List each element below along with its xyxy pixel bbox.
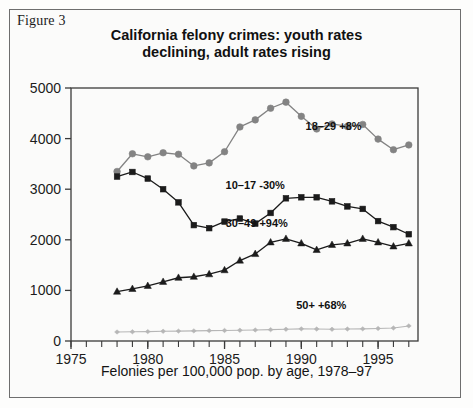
data-point-marker (283, 196, 289, 202)
data-point-marker (330, 327, 335, 331)
y-axis-tick-label: 5000 (30, 80, 61, 96)
data-point-marker (299, 194, 305, 200)
data-point-marker (175, 151, 182, 158)
y-axis-tick-label: 1000 (30, 282, 61, 298)
data-point-marker (237, 124, 244, 131)
data-point-marker (345, 327, 350, 331)
data-point-marker (207, 328, 212, 332)
data-point-marker (405, 142, 412, 149)
data-point-marker (160, 149, 167, 156)
data-point-marker (267, 105, 274, 112)
data-point-marker (282, 235, 289, 241)
data-point-marker (129, 150, 136, 157)
series-line (117, 102, 409, 171)
data-point-marker (360, 327, 365, 331)
series-30-49: 30–49 +94% (113, 217, 412, 294)
data-point-marker (298, 113, 305, 120)
data-point-marker (390, 146, 397, 153)
data-point-marker (253, 328, 258, 332)
data-point-marker (406, 324, 411, 328)
y-axis-tick-label: 0 (53, 333, 61, 349)
data-point-marker (191, 163, 198, 170)
data-point-marker (268, 327, 273, 331)
series-18-29: 18–29 +8% (114, 99, 412, 175)
data-point-marker (191, 222, 197, 228)
data-point-marker (160, 186, 166, 192)
data-point-marker (130, 169, 136, 175)
data-point-marker (391, 224, 397, 230)
series-label-0: 18–29 +8% (306, 120, 362, 132)
data-point-marker (145, 329, 150, 333)
series-label-2: 30–49 +94% (226, 217, 288, 229)
data-point-marker (191, 329, 196, 333)
data-point-marker (376, 326, 381, 330)
data-point-marker (314, 327, 319, 331)
data-point-marker (283, 327, 288, 331)
data-point-marker (360, 206, 366, 212)
series-50-: 50+ +68% (115, 299, 412, 335)
data-point-marker (206, 160, 213, 167)
data-point-marker (161, 329, 166, 333)
data-point-marker (237, 328, 242, 332)
data-point-marker (406, 231, 412, 237)
data-point-marker (359, 235, 366, 241)
y-axis-tick-label: 3000 (30, 181, 61, 197)
data-point-marker (299, 327, 304, 331)
series-label-1: 10–17 -30% (226, 179, 286, 191)
data-point-marker (221, 148, 228, 155)
y-axis-tick-label: 4000 (30, 131, 61, 147)
data-point-marker (176, 200, 182, 206)
data-point-marker (252, 250, 259, 256)
line-chart-plot: 0100020003000400050001975198019851990199… (0, 0, 473, 408)
data-point-marker (391, 326, 396, 330)
series-label-3: 50+ +68% (296, 299, 346, 311)
x-axis-title: Felonies per 100,000 pop. by age, 1978–9… (0, 363, 473, 379)
data-point-marker (405, 239, 412, 245)
data-point-marker (375, 218, 381, 224)
data-point-marker (222, 328, 227, 332)
data-point-marker (130, 330, 135, 334)
data-point-marker (375, 136, 382, 143)
figure-page: Figure 3 California felony crimes: youth… (0, 0, 473, 408)
data-point-marker (283, 99, 290, 106)
data-point-marker (252, 117, 259, 124)
data-point-marker (114, 174, 120, 180)
data-point-marker (314, 194, 320, 200)
data-point-marker (345, 204, 351, 210)
data-point-marker (221, 266, 228, 272)
data-point-marker (145, 176, 151, 182)
y-axis-tick-label: 2000 (30, 232, 61, 248)
data-point-marker (115, 330, 120, 334)
data-point-marker (206, 225, 212, 231)
data-point-marker (329, 199, 335, 205)
data-point-marker (144, 154, 151, 161)
data-point-marker (176, 329, 181, 333)
data-point-marker (268, 210, 274, 216)
